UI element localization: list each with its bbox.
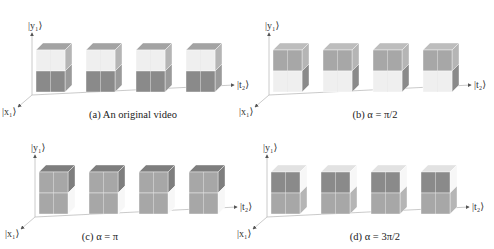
y-axis-label: |y₁⟩: [28, 20, 42, 31]
video-frame-cube: [373, 43, 409, 92]
video-frame-cube: [321, 165, 357, 214]
panel-d: |y₁⟩|x₁⟩|t₂⟩: [237, 142, 484, 239]
x-axis: [18, 95, 32, 107]
video-frame-cube: [89, 165, 125, 214]
x-axis-label: |x₁⟩: [237, 228, 251, 239]
x-axis: [253, 217, 267, 229]
panel-a: |y₁⟩|x₁⟩|t₂⟩: [2, 20, 249, 117]
x-axis: [21, 217, 35, 229]
y-axis-label: |y₁⟩: [263, 142, 277, 153]
quantum-video-rotation-figure: |y₁⟩|x₁⟩|t₂⟩(a) An original video|y₁⟩|x₁…: [0, 0, 494, 249]
y-axis-label: |y₁⟩: [31, 142, 45, 153]
panel-caption-c: (c) α = π: [82, 231, 119, 243]
video-frame-cube: [86, 43, 122, 92]
x-axis-label: |x₁⟩: [5, 228, 19, 239]
x-axis-label: |x₁⟩: [2, 106, 16, 117]
video-frame-cube: [323, 43, 359, 92]
video-frame-cube: [273, 43, 309, 92]
video-frame-cube: [423, 43, 459, 92]
t-axis-label: |t₂⟩: [240, 201, 252, 212]
video-frame-cube: [39, 165, 75, 214]
panel-caption-d: (d) α = 3π/2: [350, 231, 400, 243]
x-axis: [255, 95, 269, 107]
t-axis-label: |t₂⟩: [472, 201, 484, 212]
video-frame-cube: [36, 43, 72, 92]
video-frame-cube: [271, 165, 307, 214]
x-axis-label: |x₁⟩: [239, 106, 253, 117]
panel-b: |y₁⟩|x₁⟩|t₂⟩: [239, 20, 486, 117]
panel-c: |y₁⟩|x₁⟩|t₂⟩: [5, 142, 252, 239]
video-frame-cube: [136, 43, 172, 92]
t-axis-label: |t₂⟩: [474, 79, 486, 90]
video-frame-cube: [371, 165, 407, 214]
video-frame-cube: [421, 165, 457, 214]
video-frame-cube: [189, 165, 225, 214]
y-axis-label: |y₁⟩: [265, 20, 279, 31]
t-axis-label: |t₂⟩: [237, 79, 249, 90]
video-frame-cube: [139, 165, 175, 214]
panel-caption-a: (a) An original video: [89, 109, 177, 121]
panel-caption-b: (b) α = π/2: [352, 109, 397, 121]
video-frame-cube: [186, 43, 222, 92]
